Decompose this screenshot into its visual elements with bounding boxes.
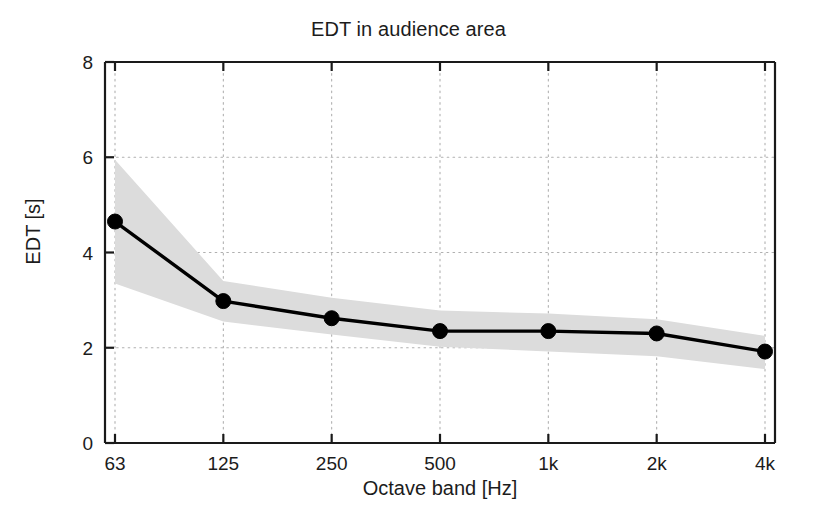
- svg-text:0: 0: [82, 433, 93, 454]
- y-tick-labels: 02468: [82, 52, 93, 454]
- svg-text:4k: 4k: [755, 453, 776, 474]
- chart-figure: EDT in audience area EDT [s] Octave band…: [0, 0, 817, 513]
- svg-text:63: 63: [104, 453, 125, 474]
- svg-text:8: 8: [82, 52, 93, 73]
- plot-area: 02468 631252505001k2k4k: [0, 0, 817, 513]
- svg-text:125: 125: [207, 453, 239, 474]
- x-tick-labels: 631252505001k2k4k: [104, 453, 775, 474]
- svg-text:500: 500: [424, 453, 456, 474]
- svg-text:1k: 1k: [538, 453, 559, 474]
- svg-text:2k: 2k: [647, 453, 668, 474]
- svg-text:6: 6: [82, 147, 93, 168]
- svg-text:2: 2: [82, 338, 93, 359]
- svg-text:4: 4: [82, 243, 93, 264]
- svg-text:250: 250: [316, 453, 348, 474]
